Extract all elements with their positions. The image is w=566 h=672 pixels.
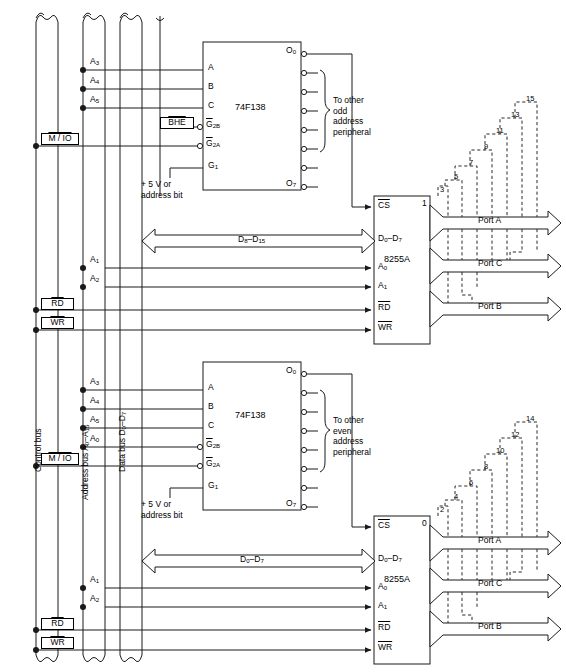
address-tap-a3-lower: A3 — [90, 377, 99, 387]
decoder-upper-supply-note: + 5 V or address bit — [141, 179, 183, 200]
periph-lower-port-c-label: Port C — [478, 579, 502, 589]
periph-lower-port-a-label: Port A — [478, 536, 501, 546]
decoder-upper-out-o0: O0 — [286, 46, 296, 56]
periph-lower-decode-num-10: 10 — [496, 447, 504, 456]
decoder-upper-pin-b: B — [208, 82, 214, 92]
address-tap-a0-lower: A0 — [90, 434, 99, 444]
control-bus-label: Control bus — [34, 429, 44, 472]
data-bus-label: Data bus D0–D7 — [118, 412, 128, 472]
periph-upper-pin-a0: A0 — [378, 262, 387, 272]
decoder-upper-out-o7: O7 — [286, 179, 296, 189]
address-tap-a3-upper: A3 — [90, 57, 99, 67]
decoder-lower-fanout-note: To other even address peripheral — [333, 415, 371, 458]
control-signal-wr-upper: WR — [41, 317, 74, 329]
periph-upper-pin-rd: RD — [378, 303, 390, 313]
decoder-lower-pin-c: C — [208, 421, 214, 431]
bhe-signal-label: BHE — [160, 117, 194, 129]
periph-lower-pin-data: D0–D7 — [378, 554, 402, 564]
periph-lower-pin-a0: A0 — [378, 582, 387, 592]
control-signal-rd-upper: RD — [41, 298, 74, 310]
periph-upper-pin-wr: WR — [378, 323, 392, 333]
address-tap-a1-lower: A1 — [90, 575, 99, 585]
control-signal-mio-upper: M / IO — [41, 133, 79, 145]
address-tap-a5-upper: A5 — [90, 95, 99, 105]
control-signal-rd-lower: RD — [41, 618, 74, 630]
decoder-upper-pin-g2b: G2B — [206, 120, 220, 130]
address-tap-a2-lower: A2 — [90, 594, 99, 604]
figure-canvas: Control bus Address bus A0–A15 Data bus … — [0, 0, 566, 672]
periph-lower-part-label: 8255A — [384, 574, 410, 584]
periph-lower-pin-a1: A1 — [378, 601, 387, 611]
periph-upper-decode-num-7: 7 — [469, 159, 473, 168]
periph-upper-decode-num-15: 15 — [526, 95, 534, 104]
periph-lower-decode-num-14: 14 — [526, 415, 534, 424]
periph-upper-decode-num-5: 5 — [454, 173, 458, 182]
periph-lower-decode-num-2: 2 — [440, 506, 444, 515]
periph-lower-pin-cs: CS — [378, 521, 390, 531]
periph-upper-pin-cs: CS — [378, 201, 390, 211]
periph-lower-decode-num-6: 6 — [469, 479, 473, 488]
periph-upper-decode-num-13: 13 — [511, 111, 519, 120]
decoder-lower-supply-note: + 5 V or address bit — [141, 499, 183, 520]
decoder-upper-pin-c: C — [208, 101, 214, 111]
periph-upper-decode-num-9: 9 — [484, 143, 488, 152]
periph-lower-port-b-label: Port B — [478, 622, 502, 632]
address-tap-a5-lower: A5 — [90, 415, 99, 425]
periph-lower-decode-num-8: 8 — [484, 463, 488, 472]
decoder-upper-fanout-note: To other odd address peripheral — [333, 95, 371, 138]
periph-lower-decode-num-12: 12 — [511, 431, 519, 440]
periph-lower-pin-wr: WR — [378, 643, 392, 653]
address-tap-a2-upper: A2 — [90, 274, 99, 284]
decoder-upper-pin-a: A — [208, 63, 214, 73]
periph-lower-decode-num-4: 4 — [454, 493, 458, 502]
periph-upper-port-a-label: Port A — [478, 216, 501, 226]
periph-lower-pin-rd: RD — [378, 623, 390, 633]
address-tap-a4-upper: A4 — [90, 76, 99, 86]
periph-lower-corner-number: 0 — [422, 519, 427, 529]
decoder-lower-out-o0: O0 — [286, 366, 296, 376]
periph-upper-corner-number: 1 — [422, 199, 427, 209]
periph-upper-port-b-label: Port B — [478, 302, 502, 312]
decoder-lower-pin-b: B — [208, 402, 214, 412]
data-bus-arrow-label-upper: D8–D15 — [238, 235, 265, 245]
periph-upper-decode-num-3: 3 — [440, 186, 444, 195]
decoder-lower-pin-g2a: G2A — [206, 459, 220, 469]
decoder-upper-pin-g1: G1 — [208, 161, 218, 171]
data-bus-arrow-label-lower: D0–D7 — [240, 555, 264, 565]
periph-upper-pin-a1: A1 — [378, 281, 387, 291]
decoder-upper-pin-g2a: G2A — [206, 139, 220, 149]
decoder-lower-pin-g1: G1 — [208, 481, 218, 491]
circuit-diagram-svg — [0, 0, 566, 672]
decoder-lower-pin-g2b: G2B — [206, 440, 220, 450]
periph-upper-port-c-label: Port C — [478, 259, 502, 269]
decoder-upper-part-label: 74F138 — [235, 102, 266, 112]
control-signal-wr-lower: WR — [41, 637, 74, 649]
periph-upper-decode-num-11: 11 — [496, 127, 504, 136]
decoder-lower-pin-a: A — [208, 383, 214, 393]
periph-upper-part-label: 8255A — [384, 254, 410, 264]
address-tap-a4-lower: A4 — [90, 396, 99, 406]
control-signal-mio-lower: M / IO — [41, 453, 79, 465]
address-tap-a1-upper: A1 — [90, 255, 99, 265]
periph-upper-pin-data: D0–D7 — [378, 234, 402, 244]
decoder-lower-part-label: 74F138 — [235, 410, 266, 420]
decoder-lower-out-o7: O7 — [286, 499, 296, 509]
